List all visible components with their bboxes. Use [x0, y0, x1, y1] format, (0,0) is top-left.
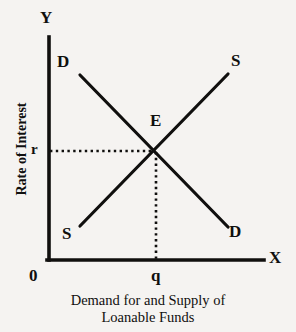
x-axis-letter: X — [269, 249, 281, 266]
figure-caption: Demand for and Supply of Loanable Funds — [0, 292, 296, 326]
figure-caption-line-1: Demand for and Supply of — [0, 292, 296, 309]
y-axis-title: Rate of Interest — [15, 89, 29, 209]
supply-curve-top-label: S — [231, 52, 240, 69]
equilibrium-point-label: E — [150, 112, 161, 129]
loanable-funds-diagram: Y X D S S D E r 0 q Rate of Interest Dem… — [0, 0, 296, 332]
supply-demand-plot-svg — [0, 0, 296, 332]
origin-label: 0 — [29, 267, 38, 284]
supply-curve-bottom-label: S — [62, 225, 71, 242]
demand-curve-top-label: D — [57, 53, 69, 70]
figure-caption-line-2: Loanable Funds — [0, 309, 296, 326]
equilibrium-rate-label: r — [31, 142, 38, 157]
equilibrium-quantity-label: q — [151, 267, 160, 284]
demand-curve-bottom-label: D — [229, 223, 241, 240]
y-axis-letter: Y — [40, 9, 52, 26]
